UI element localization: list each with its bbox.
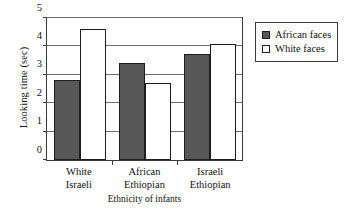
y-tick-label: 5 bbox=[37, 2, 42, 13]
x-tick-label-line: Israeli bbox=[177, 166, 243, 179]
plot-area: 012345 bbox=[46, 17, 243, 161]
dark-swatch-icon bbox=[262, 31, 270, 39]
x-tick-label: WhiteIsraeli bbox=[46, 166, 112, 191]
y-tick-label: 1 bbox=[37, 116, 42, 127]
x-tick-label-line: African bbox=[112, 166, 178, 179]
bar bbox=[80, 29, 106, 160]
x-tick-label: IsraeliEthiopian bbox=[177, 166, 243, 191]
light-swatch-icon bbox=[262, 45, 270, 53]
bar-group bbox=[47, 18, 112, 160]
y-tick-label: 3 bbox=[37, 59, 42, 70]
x-tick-label-line: Ethiopian bbox=[112, 179, 178, 192]
legend-item-label: White faces bbox=[275, 42, 325, 56]
y-axis-title: Looking time (sec) bbox=[18, 13, 29, 163]
x-axis-tick-labels: WhiteIsraeliAfricanEthiopianIsraeliEthio… bbox=[46, 166, 243, 191]
x-tick-label-line: Israeli bbox=[46, 179, 112, 192]
legend-item[interactable]: White faces bbox=[262, 42, 331, 56]
x-tick-label-line: White bbox=[46, 166, 112, 179]
bar-group bbox=[112, 18, 177, 160]
bar bbox=[145, 83, 171, 160]
x-axis-title: Ethnicity of infants bbox=[46, 194, 243, 204]
x-tick-label: AfricanEthiopian bbox=[112, 166, 178, 191]
x-axis-group-separator-tick bbox=[112, 160, 113, 165]
bars-group bbox=[47, 18, 242, 160]
x-tick-label-line: Ethiopian bbox=[177, 179, 243, 192]
chart-legend: African facesWhite faces bbox=[255, 22, 338, 62]
bar bbox=[54, 80, 80, 160]
y-tick-label: 4 bbox=[37, 31, 42, 42]
bar-chart-figure: Looking time (sec) 012345 WhiteIsraeliAf… bbox=[0, 0, 345, 211]
bar bbox=[210, 44, 236, 160]
bar bbox=[119, 63, 145, 160]
legend-item[interactable]: African faces bbox=[262, 28, 331, 42]
y-tick-label: 0 bbox=[37, 144, 42, 155]
x-axis-group-separator-tick bbox=[177, 160, 178, 165]
legend-item-label: African faces bbox=[275, 28, 331, 42]
bar-group bbox=[177, 18, 242, 160]
bar bbox=[184, 54, 210, 161]
y-tick-label: 2 bbox=[37, 87, 42, 98]
